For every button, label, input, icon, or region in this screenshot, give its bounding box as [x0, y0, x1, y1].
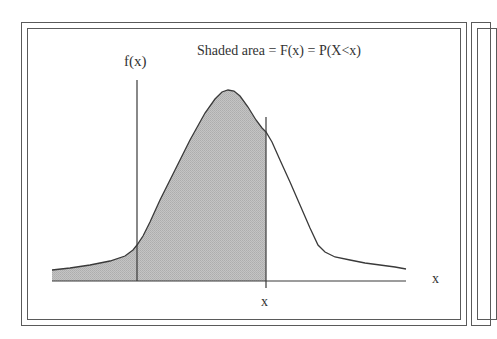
- shaded-area-annotation: Shaded area = F(x) = P(X<x): [197, 44, 361, 58]
- adjacent-panel-inner-frame: [477, 28, 497, 320]
- shaded-area: [52, 90, 266, 281]
- y-axis-label: f(x): [124, 54, 147, 69]
- x-axis-label: x: [432, 272, 439, 286]
- x-marker-label: x: [261, 295, 268, 309]
